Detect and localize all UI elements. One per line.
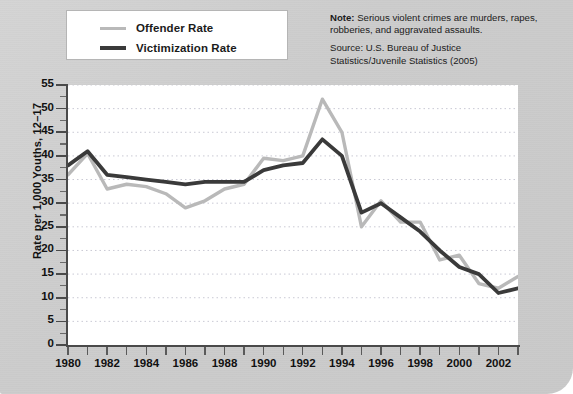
x-tick-mark	[380, 347, 381, 355]
plot-svg	[68, 85, 518, 345]
x-tick-mark	[224, 347, 225, 355]
y-tick-mark-minor	[60, 214, 66, 215]
y-tick-label: 50	[14, 101, 54, 113]
x-tick-label: 1984	[126, 357, 166, 369]
y-tick-mark	[56, 108, 66, 110]
x-tick-mark	[146, 347, 147, 355]
y-tick-mark-minor	[60, 262, 66, 263]
x-tick-mark	[322, 347, 323, 355]
y-tick-mark	[56, 179, 66, 181]
x-tick-mark	[67, 347, 68, 355]
y-tick-label: 55	[14, 77, 54, 89]
y-tick-mark-minor	[60, 96, 66, 97]
y-tick-mark	[56, 250, 66, 252]
x-tick-label: 1990	[244, 357, 284, 369]
y-tick-label: 25	[14, 219, 54, 231]
y-tick-mark	[56, 155, 66, 157]
gridlines	[68, 85, 518, 321]
y-tick-label: 20	[14, 242, 54, 254]
x-tick-mark	[126, 347, 127, 355]
series-line-victimization	[68, 139, 518, 293]
y-tick-label: 30	[14, 195, 54, 207]
plot-area	[68, 85, 518, 345]
y-tick-label: 40	[14, 148, 54, 160]
y-tick-mark-minor	[60, 167, 66, 168]
y-tick-label: 15	[14, 266, 54, 278]
note-body: Serious violent crimes are murders, rape…	[330, 12, 537, 35]
y-tick-mark	[56, 131, 66, 133]
legend-item-victimization: Victimization Rate	[67, 38, 287, 58]
y-tick-label: 0	[14, 337, 54, 349]
x-tick-mark	[263, 347, 264, 355]
y-tick-mark	[56, 297, 66, 299]
y-tick-mark-minor	[60, 143, 66, 144]
x-tick-label: 1996	[361, 357, 401, 369]
y-tick-label: 45	[14, 124, 54, 136]
note-label: Note:	[330, 12, 355, 23]
y-tick-label: 5	[14, 313, 54, 325]
x-tick-mark	[341, 347, 342, 355]
source-line-1: Source: U.S. Bureau of Justice	[330, 42, 562, 54]
x-tick-mark	[439, 347, 440, 355]
y-tick-mark-minor	[60, 309, 66, 310]
x-tick-mark	[204, 347, 205, 355]
x-tick-mark	[165, 347, 166, 355]
y-tick-mark	[56, 226, 66, 228]
x-axis-line	[66, 345, 520, 347]
x-tick-label: 1994	[322, 357, 362, 369]
source-line-2: Statistics/Juvenile Statistics (2005)	[330, 55, 562, 67]
y-tick-label: 10	[14, 290, 54, 302]
x-tick-mark	[106, 347, 107, 355]
y-tick-mark	[56, 84, 66, 86]
y-tick-label: 35	[14, 172, 54, 184]
x-tick-label: 2002	[478, 357, 518, 369]
x-tick-label: 1992	[283, 357, 323, 369]
y-axis-ticks: 0510152025303540455055	[6, 0, 54, 394]
chart-legend: Offender Rate Victimization Rate	[66, 10, 288, 60]
note-line: Note: Serious violent crimes are murders…	[330, 12, 562, 36]
y-axis-line	[66, 84, 68, 346]
legend-item-offender: Offender Rate	[67, 18, 287, 38]
y-tick-mark	[56, 344, 66, 346]
y-tick-mark	[56, 321, 66, 323]
y-tick-mark	[56, 273, 66, 275]
x-tick-label: 1982	[87, 357, 127, 369]
figure-container: Offender Rate Victimization Rate Note: S…	[0, 0, 573, 394]
x-tick-mark	[517, 347, 518, 355]
x-tick-mark	[498, 347, 499, 355]
y-tick-mark-minor	[60, 285, 66, 286]
x-tick-mark	[419, 347, 420, 355]
x-tick-mark	[400, 347, 401, 355]
legend-label-offender: Offender Rate	[136, 22, 213, 34]
x-tick-mark	[243, 347, 244, 355]
legend-swatch-victimization-icon	[100, 46, 126, 50]
x-tick-label: 1980	[48, 357, 88, 369]
y-tick-mark	[56, 202, 66, 204]
x-tick-label: 2000	[439, 357, 479, 369]
x-tick-mark	[302, 347, 303, 355]
x-tick-mark	[185, 347, 186, 355]
y-tick-mark-minor	[60, 333, 66, 334]
legend-label-victimization: Victimization Rate	[136, 42, 237, 54]
x-tick-mark	[283, 347, 284, 355]
y-tick-mark-minor	[60, 238, 66, 239]
chart-note: Note: Serious violent crimes are murders…	[330, 12, 562, 67]
x-tick-mark	[87, 347, 88, 355]
y-tick-mark-minor	[60, 120, 66, 121]
x-tick-mark	[459, 347, 460, 355]
legend-swatch-offender-icon	[100, 27, 126, 30]
x-tick-label: 1998	[400, 357, 440, 369]
x-tick-mark	[478, 347, 479, 355]
x-tick-mark	[361, 347, 362, 355]
y-tick-mark-minor	[60, 191, 66, 192]
x-tick-label: 1988	[205, 357, 245, 369]
x-tick-label: 1986	[165, 357, 205, 369]
